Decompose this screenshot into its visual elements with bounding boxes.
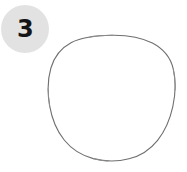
- circle-outline-icon: [46, 28, 178, 168]
- illustration-canvas: 3: [0, 0, 187, 172]
- step-number-badge: 3: [1, 5, 49, 53]
- circle-outline-illustration: [46, 28, 178, 168]
- step-number-label: 3: [17, 17, 33, 41]
